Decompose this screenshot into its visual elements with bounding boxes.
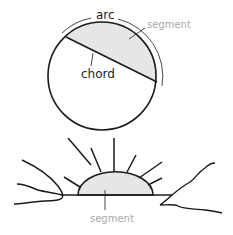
arc-label: arc	[96, 8, 115, 22]
chord-leader-line	[91, 53, 93, 66]
segment-label-bottom: segment	[90, 213, 134, 224]
left-hill	[14, 160, 63, 204]
segment-label-top: segment	[147, 19, 191, 30]
right-hill	[160, 163, 222, 213]
sunrise-figure	[14, 138, 222, 213]
circle-segment-diagram: arc segment chord segment	[0, 0, 233, 235]
chord-label: chord	[81, 67, 115, 81]
